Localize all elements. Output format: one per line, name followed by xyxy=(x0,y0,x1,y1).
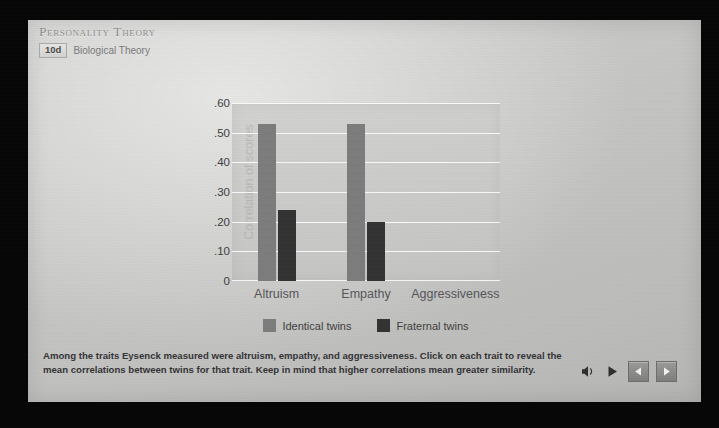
chart-bar xyxy=(367,222,385,281)
x-axis-labels: AltruismEmpathyAggressiveness xyxy=(232,287,500,307)
previous-button[interactable] xyxy=(628,361,649,382)
legend-item: Fraternal twins xyxy=(377,319,468,332)
legend-swatch xyxy=(263,319,276,332)
playback-controls xyxy=(580,358,690,384)
play-icon[interactable] xyxy=(604,363,621,380)
y-tick-label: .10 xyxy=(197,245,230,257)
y-tick-label: .20 xyxy=(197,216,230,228)
y-tick-label: .30 xyxy=(197,186,230,198)
y-tick-label: .50 xyxy=(197,127,230,139)
section-badge: 10d xyxy=(39,43,67,58)
breadcrumb: 10d Biological Theory xyxy=(39,43,150,58)
slide-panel: Personality Theory 10d Biological Theory… xyxy=(28,20,701,402)
x-axis-label[interactable]: Aggressiveness xyxy=(411,287,499,301)
y-tick-label: 0 xyxy=(197,275,230,287)
bar-chart: Correlation of scores 0.10.20.30.40.50.6… xyxy=(28,75,701,360)
legend-label: Identical twins xyxy=(282,320,351,332)
gridline xyxy=(232,103,500,104)
slide-header: Personality Theory 10d Biological Theory xyxy=(28,20,701,64)
chart-bar xyxy=(278,210,296,281)
legend-label: Fraternal twins xyxy=(396,320,468,332)
y-axis-ticks: 0.10.20.30.40.50.60 xyxy=(197,103,230,281)
screen-frame: Personality Theory 10d Biological Theory… xyxy=(0,0,719,428)
chart-bar xyxy=(258,124,276,281)
x-axis-label[interactable]: Empathy xyxy=(341,287,390,301)
page-title: Personality Theory xyxy=(39,24,156,40)
y-tick-label: .40 xyxy=(197,156,230,168)
y-tick-label: .60 xyxy=(197,97,230,109)
x-axis-label[interactable]: Altruism xyxy=(254,287,299,301)
chart-bar xyxy=(347,124,365,281)
volume-icon[interactable] xyxy=(580,363,597,380)
next-button[interactable] xyxy=(656,361,677,382)
legend-swatch xyxy=(377,319,390,332)
plot-area xyxy=(232,103,500,281)
caption-text: Among the traits Eysenck measured were a… xyxy=(43,349,563,376)
legend-item: Identical twins xyxy=(263,319,351,332)
section-label: Biological Theory xyxy=(73,45,150,56)
chart-legend: Identical twinsFraternal twins xyxy=(232,319,500,332)
